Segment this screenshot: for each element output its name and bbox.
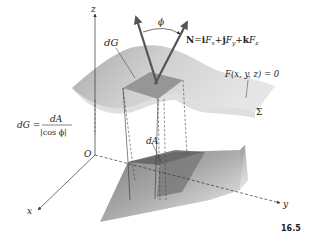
svg-text:|cos ϕ|: |cos ϕ| bbox=[40, 128, 67, 137]
figure-number: 16.5 bbox=[281, 224, 301, 233]
svg-text:dA: dA bbox=[50, 114, 63, 124]
surface-equation: F(x, y, z) = 0 bbox=[224, 69, 280, 79]
x-axis bbox=[38, 155, 95, 210]
svg-text:dG =: dG = bbox=[17, 120, 40, 130]
sigma-label: Σ bbox=[256, 107, 262, 117]
normal-vector-equation: N=iFx+jFy+kFz bbox=[186, 35, 259, 47]
area-formula: dG = dA |cos ϕ| bbox=[17, 114, 72, 137]
surface-area-diagram: z x y O dG dA ϕ Σ F(x, y, z) = 0 N=iFx+j… bbox=[0, 0, 311, 239]
dA-label: dA bbox=[146, 136, 159, 146]
phi-label: ϕ bbox=[158, 17, 164, 27]
z-axis-label: z bbox=[90, 4, 96, 14]
y-axis-label: y bbox=[282, 199, 289, 209]
phi-arc bbox=[143, 28, 180, 34]
x-axis-label: x bbox=[27, 206, 32, 216]
origin-label: O bbox=[84, 149, 92, 159]
dG-label: dG bbox=[104, 37, 118, 48]
